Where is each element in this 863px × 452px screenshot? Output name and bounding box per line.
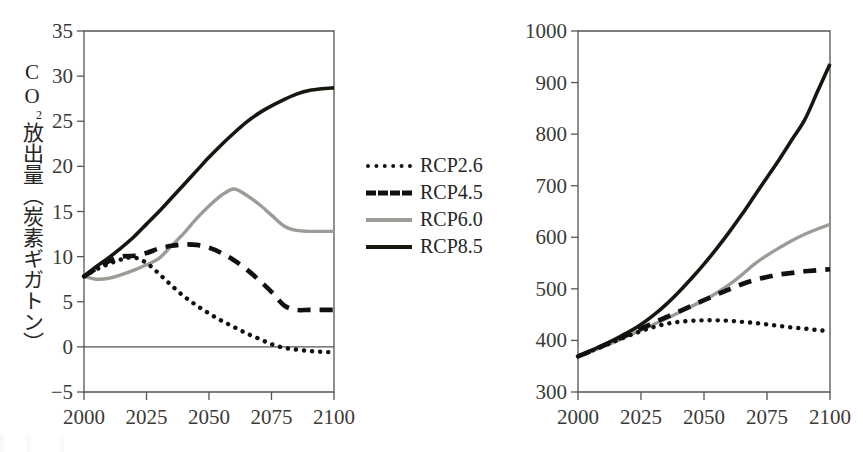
- legend-label-rcp60: RCP6.0: [420, 208, 483, 231]
- y-tick-label: 300: [536, 380, 568, 404]
- y-tick-label: 1000: [525, 19, 567, 43]
- x-tick-label: 2075: [251, 405, 293, 429]
- legend-item-rcp60[interactable]: RCP6.0: [366, 206, 498, 233]
- legend-swatch-dashed-icon: [366, 186, 412, 200]
- series-line-rcp60: [578, 224, 830, 356]
- y-tick-label: 35: [52, 19, 73, 43]
- x-tick-label: 2100: [809, 405, 851, 429]
- y-axis-title-left-text: CO2放出量（炭素ギガトン）: [20, 60, 44, 353]
- figure-rcp-scenarios: CO2放出量（炭素ギガトン） −505101520253035200020252…: [0, 0, 863, 452]
- y-tick-label: 800: [536, 122, 568, 146]
- series-line-rcp45: [84, 244, 334, 310]
- y-tick-label: 500: [536, 277, 568, 301]
- chart-co2-concentration: CO2濃度（ppm） 30040050060070080090010002000…: [500, 0, 863, 452]
- x-tick-label: 2075: [746, 405, 788, 429]
- plot-svg-right: 3004005006007008009001000200020252050207…: [500, 0, 863, 452]
- series-line-rcp85: [578, 64, 830, 356]
- x-tick-label: 2025: [126, 405, 168, 429]
- y-tick-label: 30: [52, 64, 73, 88]
- y-tick-label: 900: [536, 71, 568, 95]
- legend-label-rcp85: RCP8.5: [420, 235, 483, 258]
- legend: RCP2.6 RCP4.5 RCP6.0 RCP8.5: [366, 152, 498, 260]
- x-tick-label: 2050: [683, 405, 725, 429]
- legend-label-rcp26: RCP2.6: [420, 154, 483, 177]
- legend-item-rcp45[interactable]: RCP4.5: [366, 179, 498, 206]
- y-tick-label: 600: [536, 225, 568, 249]
- y-tick-label: 25: [52, 109, 73, 133]
- x-tick-label: 2000: [557, 405, 599, 429]
- legend-swatch-gray-solid-icon: [366, 213, 412, 227]
- chart-co2-emissions: CO2放出量（炭素ギガトン） −505101520253035200020252…: [0, 0, 360, 452]
- x-tick-label: 2100: [313, 405, 355, 429]
- plot-frame: [84, 31, 334, 392]
- legend-swatch-dotted-icon: [366, 159, 412, 173]
- legend-swatch-black-solid-icon: [366, 240, 412, 254]
- x-tick-label: 2000: [63, 405, 105, 429]
- series-line-rcp26: [84, 257, 334, 352]
- y-tick-label: 0: [63, 335, 74, 359]
- series-line-rcp60: [84, 189, 334, 279]
- y-axis-title-left: CO2放出量（炭素ギガトン）: [22, 60, 42, 340]
- y-tick-label: 15: [52, 200, 73, 224]
- y-tick-label: 5: [63, 290, 74, 314]
- legend-item-rcp26[interactable]: RCP2.6: [366, 152, 498, 179]
- y-tick-label: 10: [52, 245, 73, 269]
- y-tick-label: −5: [51, 380, 73, 404]
- series-line-rcp45: [578, 269, 830, 356]
- y-tick-label: 20: [52, 154, 73, 178]
- x-tick-label: 2050: [188, 405, 230, 429]
- y-tick-label: 400: [536, 328, 568, 352]
- legend-item-rcp85[interactable]: RCP8.5: [366, 233, 498, 260]
- y-tick-label: 700: [536, 174, 568, 198]
- legend-label-rcp45: RCP4.5: [420, 181, 483, 204]
- plot-svg-left: −50510152025303520002025205020752100: [0, 0, 360, 452]
- x-tick-label: 2025: [620, 405, 662, 429]
